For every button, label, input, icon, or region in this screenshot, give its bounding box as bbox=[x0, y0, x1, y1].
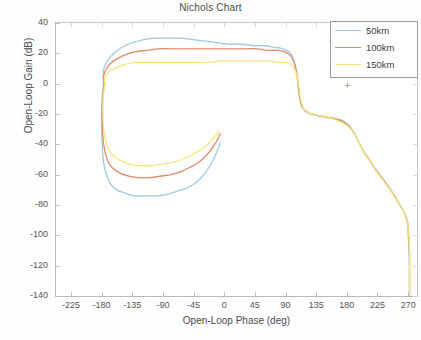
legend-label: 100km bbox=[366, 42, 395, 53]
y-axis-title: Open-Loop Gain (dB) bbox=[23, 0, 34, 176]
x-tick-label: 270 bbox=[388, 300, 421, 310]
x-tick-top bbox=[132, 23, 133, 27]
y-tick-right bbox=[413, 205, 417, 206]
x-tick bbox=[194, 292, 195, 296]
x-tick bbox=[377, 292, 378, 296]
y-tick bbox=[56, 84, 60, 85]
curve-150km bbox=[104, 61, 409, 296]
legend-line-swatch bbox=[335, 47, 361, 48]
x-tick bbox=[132, 292, 133, 296]
x-tick-top bbox=[224, 23, 225, 27]
y-tick bbox=[56, 205, 60, 206]
x-tick-top bbox=[255, 23, 256, 27]
x-tick-top bbox=[102, 23, 103, 27]
legend-item[interactable]: 150km bbox=[331, 56, 417, 73]
y-tick-label: -140 bbox=[2, 290, 48, 300]
x-tick-top bbox=[194, 23, 195, 27]
x-tick bbox=[71, 292, 72, 296]
x-tick bbox=[102, 292, 103, 296]
y-tick bbox=[56, 175, 60, 176]
y-tick-right bbox=[413, 114, 417, 115]
y-tick bbox=[56, 144, 60, 145]
plus-marker-icon: + bbox=[343, 81, 352, 90]
y-tick bbox=[56, 266, 60, 267]
y-tick-right bbox=[413, 266, 417, 267]
x-tick bbox=[408, 292, 409, 296]
y-tick-right bbox=[413, 175, 417, 176]
x-tick-top bbox=[316, 23, 317, 27]
legend-item[interactable]: 50km bbox=[331, 22, 417, 39]
x-tick bbox=[224, 292, 225, 296]
y-tick bbox=[56, 23, 60, 24]
legend-line-swatch bbox=[335, 64, 361, 65]
curve-50km-return bbox=[102, 84, 221, 196]
curve-150km-return bbox=[103, 84, 220, 166]
y-tick-right bbox=[413, 296, 417, 297]
legend-line-swatch bbox=[335, 30, 361, 31]
y-tick-label: -120 bbox=[2, 260, 48, 270]
x-tick bbox=[316, 292, 317, 296]
y-tick-right bbox=[413, 144, 417, 145]
y-tick bbox=[56, 296, 60, 297]
legend-label: 50km bbox=[366, 25, 389, 36]
curve-100km bbox=[104, 49, 410, 296]
y-tick bbox=[56, 53, 60, 54]
y-tick-right bbox=[413, 84, 417, 85]
x-tick bbox=[255, 292, 256, 296]
y-tick bbox=[56, 114, 60, 115]
legend-label: 150km bbox=[366, 59, 395, 70]
legend-item[interactable]: 100km bbox=[331, 39, 417, 56]
y-tick-label: -80 bbox=[2, 199, 48, 209]
y-tick bbox=[56, 235, 60, 236]
nichols-chart-figure: Nichols Chart -225-180-135-90-4504590135… bbox=[0, 0, 421, 340]
x-tick-top bbox=[286, 23, 287, 27]
x-tick bbox=[286, 292, 287, 296]
x-axis-title: Open-Loop Phase (deg) bbox=[55, 315, 418, 326]
x-tick-top bbox=[163, 23, 164, 27]
x-tick bbox=[347, 292, 348, 296]
legend-box[interactable]: 50km 100km 150km bbox=[330, 21, 418, 78]
x-tick-top bbox=[71, 23, 72, 27]
y-tick-right bbox=[413, 235, 417, 236]
y-tick-label: -100 bbox=[2, 229, 48, 239]
chart-title: Nichols Chart bbox=[0, 2, 421, 13]
x-tick bbox=[163, 292, 164, 296]
